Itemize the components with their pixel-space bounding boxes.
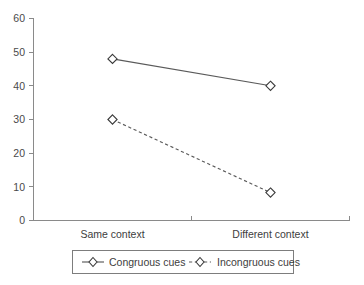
y-tick-label-60: 60	[13, 12, 25, 24]
data-point-incongruous-different-context	[266, 188, 275, 197]
y-tick-label-0: 0	[19, 214, 25, 226]
y-tick-label-30: 30	[13, 113, 25, 125]
data-point-incongruous-same-context	[108, 115, 117, 124]
series-line-incongruous-cues	[113, 120, 271, 193]
chart-legend: Congruous cues Incongruous cues	[73, 251, 300, 274]
x-category-label-same-context: Same context	[80, 228, 144, 240]
y-tick-label-20: 20	[13, 147, 25, 159]
line-chart-figure: 60 50 40 30 20 10 0 Same context Differe…	[0, 0, 364, 285]
series-line-congruous-cues	[113, 59, 271, 86]
data-point-congruous-different-context	[266, 81, 275, 90]
legend-label-incongruous-cues: Incongruous cues	[217, 256, 300, 268]
data-point-congruous-same-context	[108, 54, 117, 63]
chart-canvas: 60 50 40 30 20 10 0 Same context Differe…	[0, 0, 364, 285]
y-tick-label-40: 40	[13, 80, 25, 92]
y-tick-label-10: 10	[13, 181, 25, 193]
legend-label-congruous-cues: Congruous cues	[109, 256, 185, 268]
y-tick-label-50: 50	[13, 46, 25, 58]
x-category-label-different-context: Different context	[232, 228, 308, 240]
